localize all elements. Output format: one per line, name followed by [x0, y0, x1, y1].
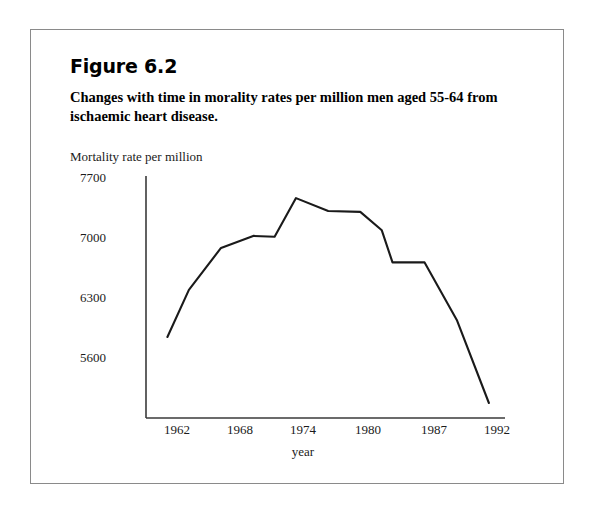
figure-page: Figure 6.2 Changes with time in morality…	[0, 0, 599, 515]
x-tick-label: 1987	[410, 422, 458, 438]
line-chart: 7700 7000 6300 5600 1962 1968 1974 1980 …	[0, 0, 599, 515]
x-tick-label: 1992	[473, 422, 521, 438]
x-tick-label: 1974	[279, 422, 327, 438]
y-tick-label: 7000	[60, 230, 106, 246]
x-tick-label: 1962	[153, 422, 201, 438]
x-tick-label: 1980	[344, 422, 392, 438]
x-tick-label: 1968	[216, 422, 264, 438]
y-tick-label: 6300	[60, 290, 106, 306]
y-tick-label: 5600	[60, 350, 106, 366]
x-axis-title: year	[279, 444, 327, 460]
y-tick-label: 7700	[60, 170, 106, 186]
mortality-rate-series	[167, 198, 489, 403]
